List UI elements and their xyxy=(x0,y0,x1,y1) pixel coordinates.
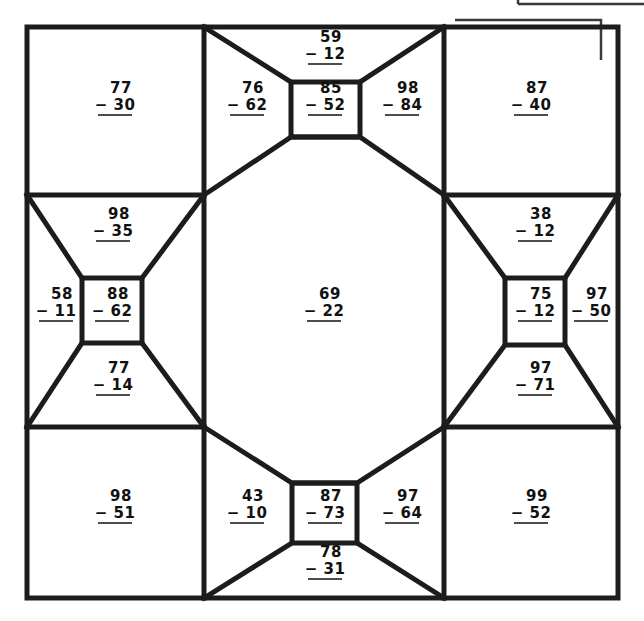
minuend: 99 xyxy=(526,487,548,505)
minuend: 98 xyxy=(397,79,419,97)
operator-and-subtrahend: − 12 xyxy=(515,302,556,320)
minuend: 85 xyxy=(320,79,342,97)
spoke-oct-left-upper xyxy=(142,195,204,278)
minuend: 76 xyxy=(242,79,264,97)
spoke-right-upper xyxy=(565,195,618,278)
operator-and-subtrahend: − 62 xyxy=(227,96,268,114)
spoke-right-lower xyxy=(565,345,618,427)
minuend: 77 xyxy=(110,79,132,97)
spoke-bottom-left xyxy=(204,543,292,598)
problem-trap-right-upper[interactable]: 38− 12 xyxy=(515,205,556,241)
operator-and-subtrahend: − 11 xyxy=(36,302,77,320)
operator-and-subtrahend: − 71 xyxy=(515,376,556,394)
problem-trap-bottom-left[interactable]: 43− 10 xyxy=(227,487,268,523)
operator-and-subtrahend: − 14 xyxy=(93,376,134,394)
problem-corner-bottom-left[interactable]: 98− 51 xyxy=(95,487,136,523)
problem-trap-left-upper[interactable]: 98− 35 xyxy=(93,205,134,241)
minuend: 98 xyxy=(110,487,132,505)
problem-trap-bottom-right[interactable]: 97− 64 xyxy=(382,487,423,523)
minuend: 88 xyxy=(107,285,129,303)
minuend: 98 xyxy=(108,205,130,223)
minuend: 97 xyxy=(397,487,419,505)
problem-wedge-bottom[interactable]: 78− 31 xyxy=(305,543,346,579)
minuend: 87 xyxy=(526,79,548,97)
problem-corner-bottom-right[interactable]: 99− 52 xyxy=(511,487,552,523)
operator-and-subtrahend: − 30 xyxy=(95,96,136,114)
minuend: 43 xyxy=(242,487,264,505)
spoke-oct-left-lower xyxy=(142,343,204,427)
problem-wedge-right[interactable]: 97− 50 xyxy=(571,285,612,321)
operator-and-subtrahend: − 22 xyxy=(304,302,345,320)
problem-trap-left-lower[interactable]: 77− 14 xyxy=(93,359,134,395)
minuend: 59 xyxy=(320,28,342,46)
operator-and-subtrahend: − 84 xyxy=(382,96,423,114)
operator-and-subtrahend: − 52 xyxy=(305,96,346,114)
spoke-left-upper xyxy=(27,195,82,278)
operator-and-subtrahend: − 12 xyxy=(305,45,346,63)
problem-center-octagon[interactable]: 69− 22 xyxy=(304,285,345,321)
problem-corner-top-left[interactable]: 77− 30 xyxy=(95,79,136,115)
operator-and-subtrahend: − 50 xyxy=(571,302,612,320)
problem-square-left[interactable]: 88− 62 xyxy=(92,285,133,321)
problem-square-bottom[interactable]: 87− 73 xyxy=(305,487,346,523)
operator-and-subtrahend: − 12 xyxy=(515,222,556,240)
problem-trap-top-right[interactable]: 98− 84 xyxy=(382,79,423,115)
operator-and-subtrahend: − 62 xyxy=(92,302,133,320)
problem-trap-right-lower[interactable]: 97− 71 xyxy=(515,359,556,395)
operator-and-subtrahend: − 64 xyxy=(382,504,423,522)
minuend: 58 xyxy=(51,285,73,303)
problem-wedge-left[interactable]: 58− 11 xyxy=(36,285,77,321)
minuend: 69 xyxy=(319,285,341,303)
problem-wedge-top[interactable]: 59− 12 xyxy=(305,28,346,64)
minuend: 38 xyxy=(530,205,552,223)
spoke-oct-right-upper xyxy=(444,195,505,278)
minuend: 97 xyxy=(586,285,608,303)
spoke-left-lower xyxy=(27,343,82,427)
minuend: 77 xyxy=(108,359,130,377)
problem-corner-top-right[interactable]: 87− 40 xyxy=(511,79,552,115)
operator-and-subtrahend: − 35 xyxy=(93,222,134,240)
operator-and-subtrahend: − 73 xyxy=(305,504,346,522)
problem-text-layer: 77− 3076− 6285− 5259− 1298− 8487− 4098− … xyxy=(36,28,612,579)
operator-and-subtrahend: − 10 xyxy=(227,504,268,522)
subtraction-puzzle-figure: 77− 3076− 6285− 5259− 1298− 8487− 4098− … xyxy=(0,0,644,621)
problem-trap-top-left[interactable]: 76− 62 xyxy=(227,79,268,115)
minuend: 87 xyxy=(320,487,342,505)
spoke-top-right xyxy=(360,27,444,82)
spoke-top-left xyxy=(204,27,291,82)
operator-and-subtrahend: − 31 xyxy=(305,560,346,578)
problem-square-right[interactable]: 75− 12 xyxy=(515,285,556,321)
spoke-oct-right-lower xyxy=(444,345,505,427)
operator-and-subtrahend: − 40 xyxy=(511,96,552,114)
operator-and-subtrahend: − 52 xyxy=(511,504,552,522)
spoke-bottom-right xyxy=(357,543,444,598)
operator-and-subtrahend: − 51 xyxy=(95,504,136,522)
minuend: 75 xyxy=(530,285,552,303)
minuend: 97 xyxy=(530,359,552,377)
minuend: 78 xyxy=(320,543,342,561)
worksheet-canvas: 77− 3076− 6285− 5259− 1298− 8487− 4098− … xyxy=(0,0,644,621)
